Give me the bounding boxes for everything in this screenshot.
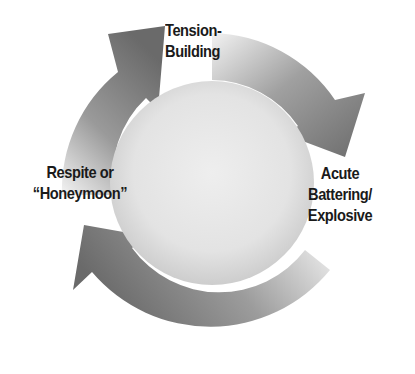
stage-label-line: Explosive (297, 205, 383, 226)
stage-label-line: Acute (297, 163, 383, 184)
stage-label-line: Battering/ (297, 184, 383, 205)
stage-label-tension-building: Tension- Building (165, 20, 251, 62)
stage-label-respite-honeymoon: Respite or “Honeymoon” (20, 162, 140, 204)
stage-label-line: Tension- (165, 20, 251, 41)
stage-label-line: Building (165, 41, 251, 62)
stage-label-acute-battering: Acute Battering/ Explosive (297, 163, 383, 226)
stage-label-line: Respite or (20, 162, 140, 183)
center-circle (110, 81, 314, 285)
stage-label-line: “Honeymoon” (20, 183, 140, 204)
